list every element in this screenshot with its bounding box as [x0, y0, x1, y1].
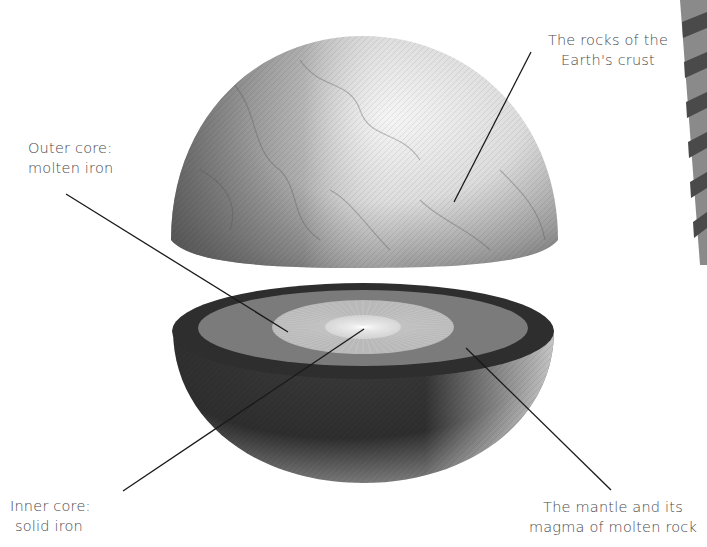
crust-label-line-1: The rocks of the — [540, 30, 676, 50]
core-rays — [273, 301, 453, 353]
outer-core-label-line-2: molten iron — [28, 158, 113, 178]
crust-label-line-2: Earth's crust — [540, 50, 676, 70]
earth-layers-diagram: The rocks of the Earth's crust Outer cor… — [0, 0, 707, 547]
cross-section — [172, 283, 554, 379]
mantle-label-line-2: magma of molten rock — [518, 517, 707, 537]
inner-core-label: Inner core: solid iron — [10, 496, 88, 536]
inner-core-label-line-1: Inner core: — [10, 496, 88, 516]
outer-core-label: Outer core: molten iron — [28, 138, 113, 178]
outer-core-label-line-1: Outer core: — [28, 138, 113, 158]
crust-label: The rocks of the Earth's crust — [540, 30, 676, 70]
diagram-canvas — [0, 0, 707, 547]
mantle-label: The mantle and its magma of molten rock — [518, 497, 707, 537]
page-edge-strip — [680, 0, 707, 265]
upper-hemisphere — [160, 30, 570, 280]
mantle-label-line-1: The mantle and its — [518, 497, 707, 517]
inner-core-label-line-2: solid iron — [10, 516, 88, 536]
